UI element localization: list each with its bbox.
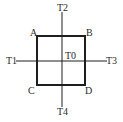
label-t1-left: T1 <box>6 56 17 66</box>
label-t3-right: T3 <box>106 56 117 66</box>
label-corner-b: B <box>86 28 93 38</box>
label-t2-top: T2 <box>57 3 68 13</box>
label-corner-c: C <box>28 86 35 96</box>
label-t0-center: T0 <box>65 51 76 61</box>
square-crosshair-diagram: A B C D T0 T1 T2 T3 T4 <box>0 0 123 122</box>
label-t4-bottom: T4 <box>57 107 68 117</box>
label-corner-d: D <box>85 86 92 96</box>
diagram-graphics <box>0 0 123 122</box>
label-corner-a: A <box>30 28 37 38</box>
